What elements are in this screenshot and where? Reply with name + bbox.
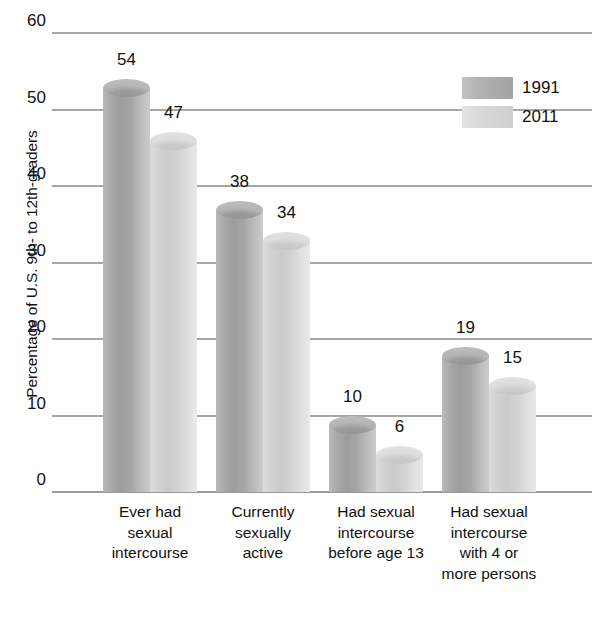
x-axis-label-line: more persons [423, 564, 555, 585]
x-axis-label-line: with 4 or [423, 543, 555, 564]
bar-value-label-1991-1: 38 [210, 173, 270, 190]
y-tick-label-10: 10 [0, 395, 46, 412]
bar-cap-ellipse [103, 79, 150, 97]
legend-label-2011: 2011 [522, 108, 559, 125]
bar-body [103, 88, 150, 492]
bar-value-label-2011-0: 47 [144, 104, 204, 121]
x-axis-label-line: Had sexual [423, 502, 555, 523]
legend-swatch-2011 [462, 106, 513, 128]
bar-body [489, 386, 536, 492]
x-axis-label-3: Had sexualintercoursewith 4 ormore perso… [423, 502, 555, 584]
y-tick-label-30: 30 [0, 242, 46, 259]
bar-value-label-1991-2: 10 [323, 388, 383, 405]
bar-value-label-1991-3: 19 [436, 319, 496, 336]
legend-item-1991: 1991 [462, 73, 560, 102]
bar-cap-ellipse [263, 232, 310, 250]
chart-legend: 19912011 [462, 73, 560, 131]
bar-body [263, 241, 310, 492]
y-tick-label-60: 60 [0, 12, 46, 29]
x-axis-label-line: intercourse [423, 523, 555, 544]
legend-item-2011: 2011 [462, 102, 560, 131]
y-tick-label-0: 0 [0, 471, 46, 488]
legend-swatch-1991 [462, 77, 513, 99]
bar-value-label-1991-0: 54 [97, 51, 157, 68]
bar-2011-2 [376, 446, 423, 492]
legend-label-1991: 1991 [522, 79, 560, 96]
bar-1991-3 [442, 347, 489, 492]
bar-cap-ellipse [376, 446, 423, 464]
bar-2011-1 [263, 232, 310, 492]
bar-1991-1 [216, 201, 263, 492]
bar-value-label-2011-1: 34 [257, 204, 317, 221]
bar-body [216, 210, 263, 492]
y-tick-label-50: 50 [0, 89, 46, 106]
bar-value-label-2011-3: 15 [483, 349, 543, 366]
bar-chart: Percentage of U.S. 9th- to 12th-graders … [0, 0, 602, 620]
bar-body [150, 141, 197, 492]
bar-2011-0 [150, 132, 197, 492]
bar-2011-3 [489, 377, 536, 492]
gridline-60 [52, 32, 592, 34]
bar-value-label-2011-2: 6 [370, 418, 430, 435]
bar-body [442, 356, 489, 492]
y-tick-label-40: 40 [0, 165, 46, 182]
y-axis-title: Percentage of U.S. 9th- to 12th-graders [23, 44, 41, 484]
bar-1991-0 [103, 79, 150, 492]
y-tick-label-20: 20 [0, 318, 46, 335]
